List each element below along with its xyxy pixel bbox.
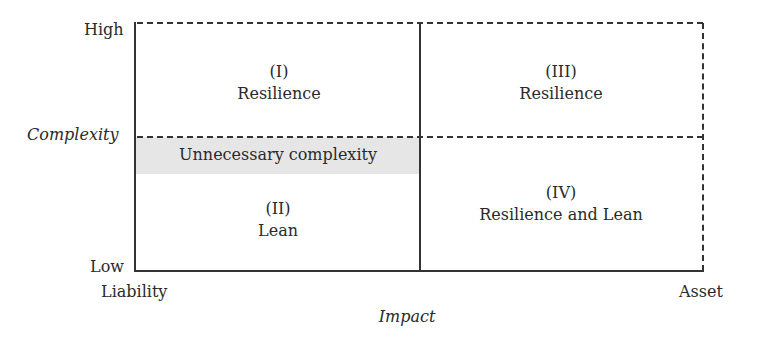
right-dashed-border — [702, 23, 704, 271]
quadrant-4-numeral: (IV) — [479, 182, 642, 204]
x-axis-right-label: Asset — [679, 282, 723, 301]
x-axis-left-label: Liability — [101, 282, 167, 301]
quadrant-2: (II) Lean — [258, 198, 298, 242]
quadrant-1: (I) Resilience — [237, 61, 320, 105]
quadrant-1-numeral: (I) — [237, 61, 320, 83]
y-axis-low-label: Low — [90, 257, 124, 276]
quadrant-4: (IV) Resilience and Lean — [479, 182, 642, 226]
y-axis-title: Complexity — [27, 125, 118, 144]
quadrant-2-label: Lean — [258, 220, 298, 242]
quadrant-4-label: Resilience and Lean — [479, 204, 642, 226]
y-axis-high-label: High — [84, 20, 124, 39]
quadrant-3-numeral: (III) — [519, 61, 602, 83]
quadrant-2-numeral: (II) — [258, 198, 298, 220]
vertical-divider-line — [419, 22, 421, 272]
y-axis-line — [134, 22, 136, 272]
quadrant-3-label: Resilience — [519, 83, 602, 105]
unnecessary-complexity-label: Unnecessary complexity — [179, 145, 377, 164]
x-axis-title: Impact — [379, 307, 436, 326]
quadrant-3: (III) Resilience — [519, 61, 602, 105]
quadrant-1-label: Resilience — [237, 83, 320, 105]
